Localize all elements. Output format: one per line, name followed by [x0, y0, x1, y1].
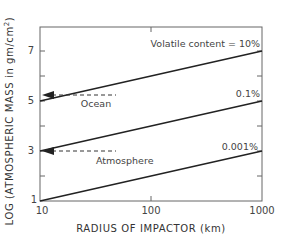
y-tick-label-1: 1	[31, 194, 37, 205]
x-tick-label-100: 100	[141, 205, 160, 216]
series-label-0.1-percent: 0.1%	[236, 88, 260, 99]
series-line-10-percent	[40, 51, 262, 101]
x-tick-label-10: 10	[36, 205, 49, 216]
series-label-10-percent: Volatile content = 10%	[151, 38, 260, 49]
y-tick-label-5: 5	[28, 95, 34, 106]
x-tick-label-1000: 1000	[249, 205, 274, 216]
y-tick-label-3: 3	[28, 145, 34, 156]
atmosphere-label: Atmosphere	[96, 155, 154, 166]
ocean-arrowhead-icon	[42, 91, 54, 99]
y-axis-title: LOG (ATMOSPHERIC MASS in gm/cm2)	[3, 17, 15, 226]
x-axis-title: RADIUS OF IMPACTOR (km)	[76, 223, 226, 234]
plot-frame	[40, 27, 262, 201]
y-ticks-right	[257, 51, 262, 176]
y-tick-label-7: 7	[28, 45, 34, 56]
atmosphere-arrowhead-icon	[42, 147, 54, 155]
chart: 7 5 3 1 10 100 1000 RADIUS OF IMPACTOR (…	[0, 0, 286, 242]
y-ticks-left	[40, 51, 45, 176]
ocean-label: Ocean	[81, 98, 111, 109]
series-label-0.001-percent: 0.001%	[222, 141, 258, 152]
